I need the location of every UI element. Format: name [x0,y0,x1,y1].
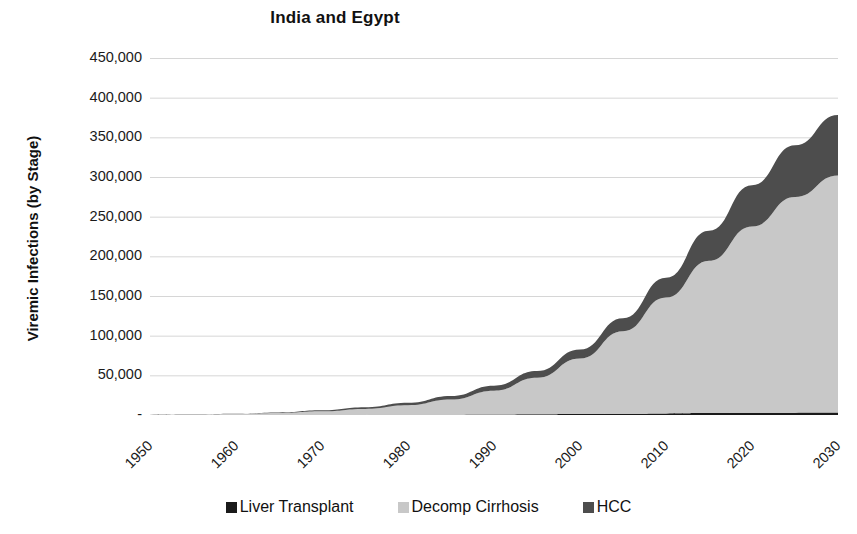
x-tick-label: 2000 [543,437,585,479]
legend-label: Liver Transplant [240,498,354,516]
legend-swatch-icon [226,502,237,513]
legend-item[interactable]: HCC [583,498,632,516]
chart-container: India and Egypt Viremic Infections (by S… [0,0,857,534]
x-tick-label: 2020 [715,437,757,479]
x-tick-label: 2030 [801,437,843,479]
chart-legend: Liver TransplantDecomp CirrhosisHCC [0,498,857,516]
legend-item[interactable]: Decomp Cirrhosis [398,498,539,516]
legend-label: HCC [597,498,632,516]
legend-swatch-icon [398,502,409,513]
x-tick-label: 1980 [371,437,413,479]
x-tick-label: 1970 [285,437,327,479]
x-tick-label: 1990 [457,437,499,479]
legend-swatch-icon [583,502,594,513]
x-tick-label: 1960 [199,437,241,479]
x-tick-label: 2010 [629,437,671,479]
legend-item[interactable]: Liver Transplant [226,498,354,516]
x-tick-label: 1950 [113,437,155,479]
x-axis-tick-labels: 195019601970198019902000201020202030 [0,0,857,534]
legend-label: Decomp Cirrhosis [412,498,539,516]
